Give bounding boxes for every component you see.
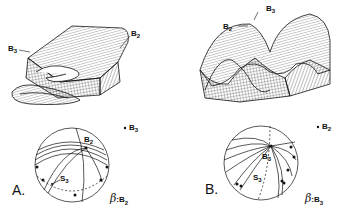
stereonet-a-points — [36, 127, 127, 197]
stereonet-a-s3-label: S3 — [60, 175, 69, 184]
figure-drawing — [0, 0, 342, 208]
label-a-b2: B2 — [131, 30, 140, 39]
legend-b-beta: β:B3 — [305, 193, 323, 206]
label-b-b2: B2 — [223, 23, 232, 32]
legend-b-point: B2 — [322, 123, 331, 132]
panel-label-a: A. — [12, 183, 25, 197]
stereonet-b — [224, 126, 298, 200]
stereonet-a — [35, 128, 109, 202]
block-diagram-a — [12, 26, 130, 105]
legend-a-beta: β:B2 — [110, 193, 128, 206]
stereonet-a-pole-label: B2 — [84, 136, 93, 145]
label-b-b3: B3 — [266, 5, 275, 14]
panel-label-b: B. — [205, 182, 218, 196]
legend-a-point: B3 — [129, 124, 138, 133]
stereonet-b-pole-label: B3 — [262, 153, 271, 162]
stereonet-b-s3-label: S3 — [253, 174, 262, 183]
label-a-b3: B3 — [8, 45, 17, 54]
block-diagram-b — [200, 12, 330, 102]
